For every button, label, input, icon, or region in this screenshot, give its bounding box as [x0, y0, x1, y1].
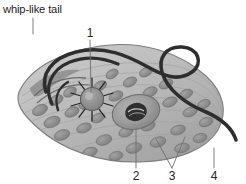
- label-number-4: 4: [211, 169, 218, 183]
- label-number-3: 3: [169, 169, 176, 183]
- label-whip-like-tail: whip-like tail: [2, 3, 62, 15]
- euglena-diagram: whip-like tail 1 2 3 4: [0, 0, 246, 184]
- label-number-1: 1: [87, 26, 94, 40]
- label-number-2: 2: [133, 169, 140, 183]
